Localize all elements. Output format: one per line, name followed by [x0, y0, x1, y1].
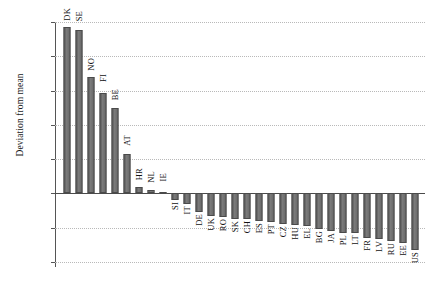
bar-category-label: CZ	[278, 226, 288, 237]
bar-category-label: FI	[98, 74, 108, 82]
bar-group[interactable]: US	[409, 18, 421, 266]
bar-group[interactable]: LT	[349, 18, 361, 266]
bar[interactable]	[196, 193, 203, 212]
bar-category-label: AT	[122, 135, 132, 146]
bar-category-label: DE	[194, 214, 204, 226]
bar-group[interactable]: NO	[85, 18, 97, 266]
bar[interactable]	[352, 193, 359, 233]
bar[interactable]	[268, 193, 275, 222]
bar[interactable]	[208, 193, 215, 216]
plot-area: 2.502.001.501.000.500.00−0.50−1.00 DKSEN…	[55, 18, 425, 266]
bar-category-label: BE	[110, 89, 120, 100]
bar-group[interactable]: UK	[205, 18, 217, 266]
bar-category-label: ES	[254, 223, 264, 233]
bar-group[interactable]: HU	[289, 18, 301, 266]
bar[interactable]	[88, 77, 95, 194]
bar[interactable]	[388, 193, 395, 241]
bar-group[interactable]: EL	[301, 18, 313, 266]
bar-category-label: SK	[230, 221, 240, 232]
bar-category-label: EL	[302, 228, 312, 239]
bar-group[interactable]: RU	[385, 18, 397, 266]
y-axis-title: Deviation from mean	[15, 35, 25, 195]
bar-group[interactable]: CZ	[277, 18, 289, 266]
bar[interactable]	[280, 193, 287, 223]
bar-group[interactable]: DK	[61, 18, 73, 266]
bar-group[interactable]: IE	[157, 18, 169, 266]
bar[interactable]	[172, 193, 179, 200]
bar-chart: Deviation from mean 2.502.001.501.000.50…	[0, 0, 435, 284]
bar-category-label: BG	[314, 231, 324, 243]
bar-category-label: FR	[362, 240, 372, 251]
bar[interactable]	[148, 190, 155, 193]
bar-group[interactable]: RO	[217, 18, 229, 266]
bar[interactable]	[184, 193, 191, 204]
bar-category-label: SE	[74, 11, 84, 21]
bar-category-label: PT	[266, 224, 276, 234]
bar-group[interactable]: LV	[373, 18, 385, 266]
bar-category-label: RO	[218, 219, 228, 231]
bar-category-label: RU	[386, 243, 396, 255]
bar[interactable]	[340, 193, 347, 232]
bar-group[interactable]: BE	[109, 18, 121, 266]
bar-category-label: PL	[338, 235, 348, 245]
bar[interactable]	[244, 193, 251, 219]
bar-category-label: US	[410, 252, 420, 263]
bar-group[interactable]: IT	[181, 18, 193, 266]
bars-layer: DKSENOFIBEATHRNLIESIITDEUKROSKCHESPTCZHU…	[55, 18, 425, 266]
bar[interactable]	[100, 93, 107, 194]
bar-group[interactable]: SK	[229, 18, 241, 266]
bar-category-label: LT	[350, 235, 360, 245]
bar-group[interactable]: FR	[361, 18, 373, 266]
bar-category-label: LV	[374, 241, 384, 252]
bar-group[interactable]: ES	[253, 18, 265, 266]
bar[interactable]	[364, 193, 371, 238]
bar[interactable]	[124, 154, 131, 193]
bar-category-label: UK	[206, 218, 216, 231]
bar[interactable]	[232, 193, 239, 218]
bar-category-label: HR	[134, 168, 144, 180]
bar[interactable]	[76, 30, 83, 194]
bar-category-label: IE	[158, 173, 168, 181]
bar[interactable]	[112, 108, 119, 194]
bar[interactable]	[292, 193, 299, 225]
bar-group[interactable]: JA	[325, 18, 337, 266]
bar-group[interactable]: BG	[313, 18, 325, 266]
bar-category-label: HU	[290, 227, 300, 240]
bar-group[interactable]: PT	[265, 18, 277, 266]
bar-group[interactable]: PL	[337, 18, 349, 266]
bar-group[interactable]: AT	[121, 18, 133, 266]
bar-group[interactable]: CH	[241, 18, 253, 266]
bar-category-label: EE	[398, 245, 408, 256]
bar[interactable]	[328, 193, 335, 231]
bar-category-label: DK	[62, 8, 72, 21]
bar-group[interactable]: FI	[97, 18, 109, 266]
bar-group[interactable]: SE	[73, 18, 85, 266]
bar[interactable]	[64, 27, 71, 194]
bar[interactable]	[400, 193, 407, 243]
bar-category-label: CH	[242, 221, 252, 233]
bar-category-label: NO	[86, 58, 96, 71]
bar[interactable]	[136, 187, 143, 194]
bar-category-label: JA	[326, 233, 336, 243]
bar-group[interactable]: NL	[145, 18, 157, 266]
bar[interactable]	[220, 193, 227, 217]
bar-category-label: SI	[170, 202, 180, 210]
bar[interactable]	[412, 193, 419, 250]
bar[interactable]	[376, 193, 383, 239]
bar-group[interactable]: DE	[193, 18, 205, 266]
bar-category-label: NL	[146, 171, 156, 183]
bar[interactable]	[304, 193, 311, 226]
bar-group[interactable]: HR	[133, 18, 145, 266]
bar-group[interactable]: EE	[397, 18, 409, 266]
bar[interactable]	[256, 193, 263, 220]
bar[interactable]	[316, 193, 323, 229]
bar-group[interactable]: SI	[169, 18, 181, 266]
bar[interactable]	[160, 192, 167, 194]
bar-category-label: IT	[182, 206, 192, 214]
